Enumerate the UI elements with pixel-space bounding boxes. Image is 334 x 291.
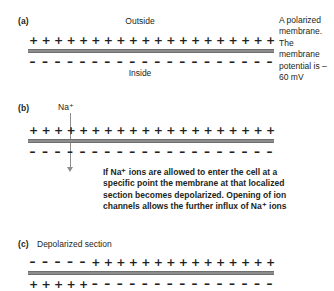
positive-charge: + bbox=[41, 35, 48, 46]
positive-charge: + bbox=[129, 35, 136, 46]
negative-charge: – bbox=[166, 56, 173, 68]
negative-charge: – bbox=[141, 146, 148, 158]
positive-charge: + bbox=[116, 125, 123, 136]
negative-charge: – bbox=[129, 278, 136, 290]
panel-a-outer-charge-row: ++++++++++++++++++++ bbox=[28, 34, 274, 46]
negative-charge: – bbox=[54, 56, 61, 68]
negative-charge: – bbox=[179, 146, 186, 158]
panel-b-membrane-line bbox=[28, 139, 274, 143]
negative-charge: – bbox=[66, 256, 73, 268]
negative-charge: – bbox=[54, 256, 61, 268]
negative-charge: – bbox=[154, 56, 161, 68]
negative-charge: – bbox=[229, 146, 236, 158]
negative-charge: – bbox=[166, 146, 173, 158]
panel-b-outer-charge-row: ++++++++++++++++++++ bbox=[28, 124, 274, 136]
panel-b-membrane: ++++++++++++++++++++ –––––––––––––––––––… bbox=[28, 124, 274, 154]
positive-charge: + bbox=[79, 35, 86, 46]
negative-charge: – bbox=[91, 146, 98, 158]
panel-a-side-caption: A polarized membrane. The membrane poten… bbox=[279, 15, 333, 83]
negative-charge: – bbox=[216, 56, 223, 68]
negative-charge: – bbox=[154, 278, 161, 290]
positive-charge: + bbox=[141, 125, 148, 136]
negative-charge: – bbox=[116, 278, 123, 290]
panel-a-membrane: ++++++++++++++++++++ –––––––––––––––––––… bbox=[28, 34, 274, 64]
positive-charge: + bbox=[266, 257, 273, 268]
positive-charge: + bbox=[91, 125, 98, 136]
negative-charge: – bbox=[266, 146, 273, 158]
negative-charge: – bbox=[41, 256, 48, 268]
positive-charge: + bbox=[241, 257, 248, 268]
positive-charge: + bbox=[253, 125, 260, 136]
negative-charge: – bbox=[91, 56, 98, 68]
panel-a-membrane-line bbox=[28, 49, 274, 53]
positive-charge: + bbox=[66, 279, 73, 290]
negative-charge: – bbox=[266, 56, 273, 68]
negative-charge: – bbox=[116, 146, 123, 158]
positive-charge: + bbox=[241, 35, 248, 46]
positive-charge: + bbox=[104, 125, 111, 136]
positive-charge: + bbox=[91, 35, 98, 46]
positive-charge: + bbox=[191, 257, 198, 268]
positive-charge: + bbox=[66, 125, 73, 136]
negative-charge: – bbox=[154, 146, 161, 158]
negative-charge: – bbox=[29, 256, 36, 268]
positive-charge: + bbox=[154, 125, 161, 136]
negative-charge: – bbox=[179, 56, 186, 68]
negative-charge: – bbox=[191, 278, 198, 290]
positive-charge: + bbox=[266, 125, 273, 136]
positive-charge: + bbox=[116, 257, 123, 268]
positive-charge: + bbox=[91, 257, 98, 268]
negative-charge: – bbox=[129, 146, 136, 158]
panel-c-membrane-line bbox=[28, 271, 274, 275]
positive-charge: + bbox=[229, 257, 236, 268]
positive-charge: + bbox=[166, 125, 173, 136]
positive-charge: + bbox=[29, 279, 36, 290]
positive-charge: + bbox=[216, 257, 223, 268]
negative-charge: – bbox=[41, 146, 48, 158]
negative-charge: – bbox=[104, 146, 111, 158]
negative-charge: – bbox=[66, 146, 73, 158]
positive-charge: + bbox=[129, 257, 136, 268]
negative-charge: – bbox=[29, 56, 36, 68]
panel-a-label: (a) bbox=[18, 16, 29, 26]
positive-charge: + bbox=[229, 35, 236, 46]
negative-charge: – bbox=[104, 278, 111, 290]
positive-charge: + bbox=[129, 125, 136, 136]
panel-b-inner-charge-row: –––––––––––––––––––– bbox=[28, 146, 274, 158]
negative-charge: – bbox=[191, 146, 198, 158]
negative-charge: – bbox=[216, 146, 223, 158]
negative-charge: – bbox=[229, 56, 236, 68]
sodium-ion-label: Na⁺ bbox=[58, 102, 74, 112]
positive-charge: + bbox=[166, 35, 173, 46]
negative-charge: – bbox=[266, 278, 273, 290]
positive-charge: + bbox=[253, 257, 260, 268]
panel-b-body-text: If Na⁺ ions are allowed to enter the cel… bbox=[103, 167, 308, 213]
positive-charge: + bbox=[79, 125, 86, 136]
positive-charge: + bbox=[204, 125, 211, 136]
negative-charge: – bbox=[104, 56, 111, 68]
positive-charge: + bbox=[204, 257, 211, 268]
panel-a-outside-label: Outside bbox=[80, 16, 200, 26]
negative-charge: – bbox=[91, 278, 98, 290]
panel-c-outer-charge-row: –––––+++++++++++++++ bbox=[28, 256, 274, 268]
negative-charge: – bbox=[204, 56, 211, 68]
negative-charge: – bbox=[179, 278, 186, 290]
negative-charge: – bbox=[253, 278, 260, 290]
positive-charge: + bbox=[104, 257, 111, 268]
negative-charge: – bbox=[229, 278, 236, 290]
negative-charge: – bbox=[141, 56, 148, 68]
positive-charge: + bbox=[216, 35, 223, 46]
negative-charge: – bbox=[129, 56, 136, 68]
negative-charge: – bbox=[204, 146, 211, 158]
positive-charge: + bbox=[116, 35, 123, 46]
positive-charge: + bbox=[66, 35, 73, 46]
positive-charge: + bbox=[216, 125, 223, 136]
positive-charge: + bbox=[54, 125, 61, 136]
panel-a-inside-label: Inside bbox=[80, 68, 200, 78]
negative-charge: – bbox=[29, 146, 36, 158]
negative-charge: – bbox=[241, 278, 248, 290]
positive-charge: + bbox=[191, 35, 198, 46]
negative-charge: – bbox=[66, 56, 73, 68]
positive-charge: + bbox=[54, 279, 61, 290]
